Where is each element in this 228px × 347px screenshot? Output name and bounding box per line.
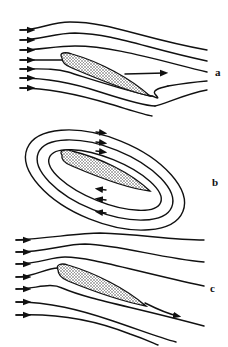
airfoil <box>57 264 146 306</box>
streamline <box>155 90 207 106</box>
panel-c: c <box>16 233 215 345</box>
circulation-streamline-inner <box>41 137 169 223</box>
panel-label-b: b <box>212 176 218 188</box>
streamline <box>16 302 176 342</box>
upper-rear-streamline <box>125 73 165 74</box>
panel-label-a: a <box>215 66 221 78</box>
panel-a: a <box>20 22 221 116</box>
circulation-streamline-outer <box>11 110 198 251</box>
streamline <box>16 233 204 240</box>
streamline <box>168 81 207 86</box>
panel-b: b <box>11 110 218 251</box>
airfoil-flow-diagram: a b <box>0 0 228 347</box>
streamline <box>20 33 207 61</box>
trailing-edge-streamline <box>152 86 168 98</box>
panel-label-c: c <box>210 282 215 294</box>
streamline <box>16 244 204 262</box>
streamline <box>20 46 207 72</box>
streamline <box>16 268 58 277</box>
trailing-streamline <box>145 303 178 316</box>
circulation-streamline-middle <box>26 123 183 236</box>
